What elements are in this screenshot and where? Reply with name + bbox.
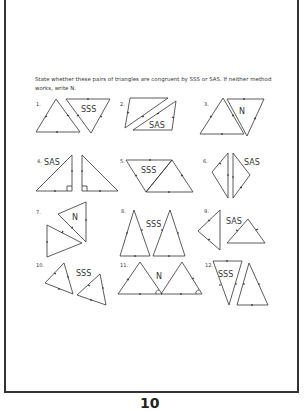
triangle	[213, 261, 242, 305]
triangle	[161, 262, 202, 294]
problem-number: 7.	[36, 209, 41, 215]
answer-label: N	[156, 272, 162, 281]
problem-number: 6.	[203, 158, 208, 164]
triangle	[237, 263, 268, 305]
problem-number: 11.	[120, 262, 128, 268]
problem-number: 10.	[36, 262, 44, 268]
triangle	[146, 160, 193, 192]
triangle	[47, 225, 82, 257]
problem-1: 1. SSS	[36, 98, 110, 133]
answer-label: SAS	[226, 217, 242, 226]
problem-number: 3.	[204, 101, 209, 107]
triangle	[198, 210, 220, 250]
problem-number: 12.	[205, 262, 213, 268]
problem-number: 2.	[120, 101, 125, 107]
problem-11: 11. N	[118, 262, 202, 295]
right-angle-mark	[67, 186, 72, 191]
answer-label: SAS	[44, 158, 60, 167]
answer-label: SSS	[141, 166, 156, 175]
problem-6: 6. SAS	[203, 153, 260, 198]
answer-label: SSS	[81, 105, 96, 114]
problem-number: 5.	[120, 158, 125, 164]
problem-number: 8.	[121, 208, 126, 214]
page-number: 10	[140, 396, 159, 410]
problem-2: 2. SAS	[120, 98, 176, 130]
problem-4: 4. SAS	[36, 155, 118, 192]
problem-3: 3. N	[200, 98, 264, 136]
problem-9: 9. SAS	[198, 208, 265, 250]
answer-label: SSS	[76, 269, 91, 278]
triangle	[58, 202, 86, 242]
problem-8: 8. SSS	[120, 208, 185, 257]
answer-label: N	[72, 213, 78, 222]
answer-label: SSS	[146, 220, 161, 229]
answer-label: SAS	[244, 158, 260, 167]
answer-label: SSS	[218, 270, 233, 279]
problem-10: 10. SSS	[36, 262, 106, 305]
triangle	[126, 160, 172, 192]
triangle	[227, 99, 264, 136]
right-angle-mark	[82, 186, 87, 191]
triangle	[153, 210, 185, 256]
answer-label: N	[239, 107, 245, 116]
problem-7: 7. N	[36, 202, 87, 257]
triangle	[120, 210, 150, 256]
triangle	[36, 99, 80, 132]
problem-12: 12. SSS	[205, 260, 268, 306]
problem-number: 1.	[36, 101, 41, 107]
problem-number: 4.	[37, 158, 42, 164]
problem-number: 9.	[204, 208, 209, 214]
problem-5: 5. SSS	[120, 158, 193, 193]
answer-label: SAS	[149, 121, 165, 130]
triangle	[212, 153, 228, 198]
